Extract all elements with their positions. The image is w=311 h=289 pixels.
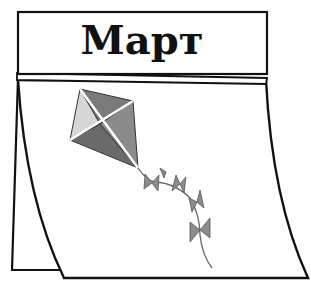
- calendar-illustration: Март: [0, 0, 311, 289]
- month-title: Март: [18, 14, 266, 64]
- front-page: [18, 80, 308, 278]
